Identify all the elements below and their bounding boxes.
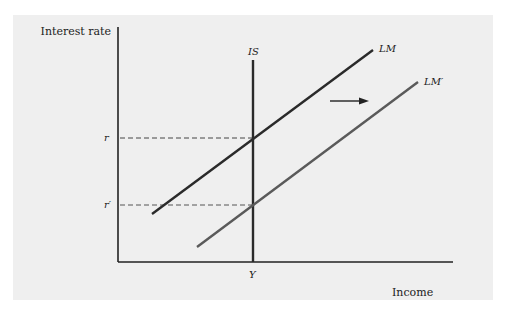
lm-prime-curve <box>197 82 418 247</box>
lm-curve <box>152 50 373 214</box>
y-label: Y <box>249 269 257 280</box>
is-label: IS <box>247 46 259 57</box>
lm-prime-label: LM′ <box>423 76 444 87</box>
shift-arrow-head-icon <box>359 98 369 105</box>
is-lm-diagram: Interest rate Income IS LM LM′ r r′ Y <box>0 0 507 317</box>
y-axis-label: Interest rate <box>41 25 111 38</box>
r-label: r <box>104 132 110 143</box>
x-axis-label: Income <box>392 286 433 299</box>
lm-label: LM <box>378 43 397 54</box>
r-prime-label: r′ <box>104 199 112 210</box>
